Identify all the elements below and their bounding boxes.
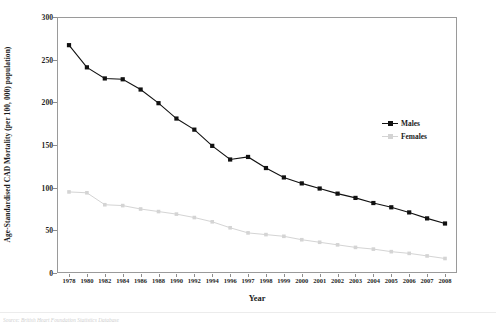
x-tick-mark xyxy=(391,274,392,277)
y-tick-label: 200 xyxy=(25,98,53,107)
x-tick-mark xyxy=(212,274,213,277)
x-tick-label: 2007 xyxy=(421,277,434,284)
x-tick-label: 1990 xyxy=(170,277,183,284)
data-point-marker xyxy=(389,250,393,254)
data-point-marker xyxy=(103,203,107,207)
data-point-marker xyxy=(425,216,429,220)
data-point-marker xyxy=(389,205,393,209)
x-tick-mark xyxy=(141,274,142,277)
data-point-marker xyxy=(443,221,447,225)
data-point-marker xyxy=(192,128,196,132)
series-line xyxy=(69,192,445,259)
data-point-marker xyxy=(300,181,304,185)
x-tick-label: 1998 xyxy=(259,277,272,284)
footer-caption: Source: British Heart Foundation Statist… xyxy=(3,317,333,323)
x-tick-label: 2000 xyxy=(295,277,308,284)
data-point-marker xyxy=(85,65,89,69)
data-point-marker xyxy=(318,240,322,244)
data-point-marker xyxy=(318,186,322,190)
x-tick-mark xyxy=(87,274,88,277)
data-point-marker xyxy=(353,196,357,200)
data-point-marker xyxy=(139,87,143,91)
x-tick-label: 1999 xyxy=(277,277,290,284)
data-point-marker xyxy=(372,247,376,251)
data-point-marker xyxy=(139,207,143,211)
x-tick-label: 2002 xyxy=(331,277,344,284)
y-tick-label: 0 xyxy=(25,269,53,278)
x-tick-label: 2008 xyxy=(439,277,452,284)
x-tick-label: 1997 xyxy=(242,277,255,284)
data-point-marker xyxy=(193,216,197,220)
data-point-marker xyxy=(156,101,160,105)
data-point-marker xyxy=(371,201,375,205)
x-tick-mark xyxy=(105,274,106,277)
chart-figure: Age-Standardised CAD Mortality (per 100,… xyxy=(0,0,496,328)
x-tick-mark xyxy=(427,274,428,277)
y-tick-label: 150 xyxy=(25,141,53,150)
x-tick-mark xyxy=(159,274,160,277)
data-point-marker xyxy=(121,77,125,81)
x-tick-label: 2003 xyxy=(349,277,362,284)
data-point-marker xyxy=(210,144,214,148)
data-point-marker xyxy=(407,210,411,214)
x-tick-label: 1986 xyxy=(134,277,147,284)
x-tick-mark xyxy=(302,274,303,277)
x-tick-label: 1984 xyxy=(116,277,129,284)
data-point-marker xyxy=(246,155,250,159)
x-tick-mark xyxy=(320,274,321,277)
data-point-marker xyxy=(67,43,71,47)
x-tick-mark xyxy=(284,274,285,277)
data-point-marker xyxy=(103,76,107,80)
x-tick-mark xyxy=(123,274,124,277)
x-tick-label: 1982 xyxy=(98,277,111,284)
data-point-marker xyxy=(228,157,232,161)
legend-swatch-icon xyxy=(382,133,398,140)
legend-label: Females xyxy=(401,132,427,141)
chart-legend: MalesFemales xyxy=(382,117,452,143)
x-tick-mark xyxy=(373,274,374,277)
data-point-marker xyxy=(300,238,304,242)
x-axis-ticks: 1978198019821984198619881990199219941996… xyxy=(57,274,457,294)
x-tick-mark xyxy=(176,274,177,277)
x-tick-mark xyxy=(409,274,410,277)
legend-swatch-icon xyxy=(382,120,398,127)
data-point-marker xyxy=(157,210,161,214)
y-tick-label: 100 xyxy=(25,183,53,192)
x-tick-mark xyxy=(248,274,249,277)
x-tick-mark xyxy=(230,274,231,277)
x-tick-label: 1992 xyxy=(188,277,201,284)
legend-label: Males xyxy=(401,119,420,128)
data-point-marker xyxy=(264,233,268,237)
data-point-marker xyxy=(85,191,89,195)
x-tick-mark xyxy=(445,274,446,277)
legend-item-males[interactable]: Males xyxy=(382,117,452,130)
x-tick-label: 1978 xyxy=(63,277,76,284)
data-point-marker xyxy=(354,246,358,250)
data-point-marker xyxy=(407,252,411,256)
data-point-marker xyxy=(246,231,250,235)
x-tick-label: 2004 xyxy=(367,277,380,284)
y-tick-label: 300 xyxy=(25,13,53,22)
x-tick-label: 2001 xyxy=(313,277,326,284)
y-tick-label: 250 xyxy=(25,55,53,64)
data-point-marker xyxy=(174,116,178,120)
x-tick-label: 1994 xyxy=(206,277,219,284)
y-axis-title-text: Age-Standardised CAD Mortality (per 100,… xyxy=(3,20,12,270)
data-point-marker xyxy=(121,204,125,208)
x-tick-label: 1996 xyxy=(224,277,237,284)
legend-item-females[interactable]: Females xyxy=(382,130,452,143)
footer-divider xyxy=(0,312,496,313)
x-tick-label: 2005 xyxy=(385,277,398,284)
data-point-marker xyxy=(443,257,447,261)
data-point-marker xyxy=(264,166,268,170)
data-point-marker xyxy=(67,190,71,194)
x-tick-mark xyxy=(338,274,339,277)
y-axis-ticks: 050100150200250300 xyxy=(22,17,53,273)
x-tick-label: 1980 xyxy=(80,277,93,284)
x-axis-title: Year xyxy=(57,294,457,303)
y-tick-label: 50 xyxy=(25,226,53,235)
data-point-marker xyxy=(336,243,340,247)
data-point-marker xyxy=(228,226,232,230)
x-tick-mark xyxy=(266,274,267,277)
x-tick-mark xyxy=(69,274,70,277)
